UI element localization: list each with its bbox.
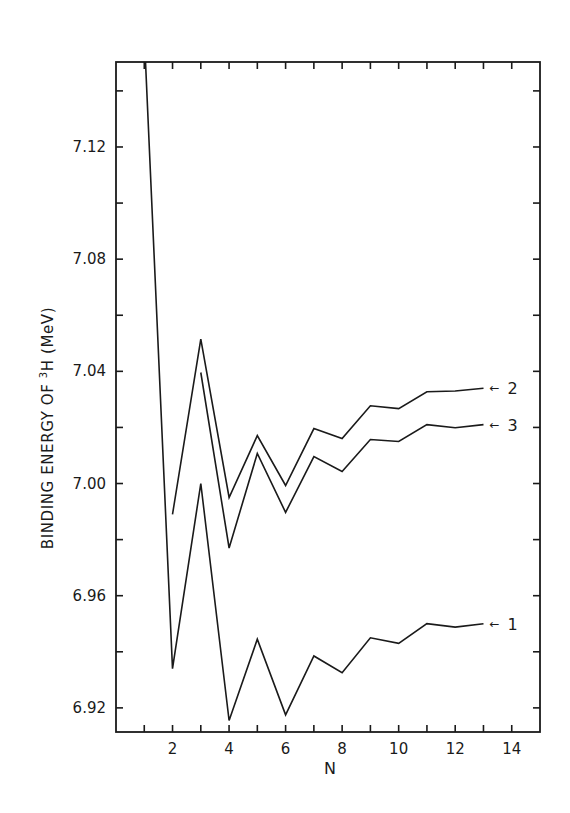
series-label-text: 2 [507,379,517,398]
y-axis-label-pre: BINDING ENERGY OF [39,378,57,549]
axis-ticks [116,62,540,732]
plot-area [144,35,483,721]
series-label-3: ←3 [489,416,517,435]
y-tick-label: 6.92 [73,699,106,717]
series-line-3 [201,373,484,549]
x-axis-tick-labels: 2468101214 [168,740,522,758]
series-label-text: 1 [507,615,517,634]
x-tick-label: 10 [389,740,408,758]
y-axis-label: BINDING ENERGY OF 3H (MeV) [38,307,57,549]
series-label-1: ←1 [489,615,517,634]
y-tick-label: 7.00 [73,475,106,493]
series-labels: ←2←3←1 [489,379,517,634]
series-label-2: ←2 [489,379,517,398]
x-tick-label: 8 [337,740,347,758]
y-tick-label: 7.08 [73,250,106,268]
y-axis-label-post: H (MeV) [39,307,57,371]
x-tick-label: 6 [281,740,291,758]
y-tick-label: 7.12 [73,138,106,156]
plot-frame [116,62,540,732]
arrow-left-icon: ← [489,381,499,395]
binding-energy-chart: 6.926.967.007.047.087.12 2468101214 ←2←3… [0,0,570,813]
x-axis-label: N [324,759,336,778]
x-tick-label: 14 [502,740,521,758]
x-tick-label: 2 [168,740,178,758]
arrow-left-icon: ← [489,418,499,432]
y-tick-label: 6.96 [73,587,106,605]
y-tick-label: 7.04 [73,362,106,380]
x-tick-label: 4 [224,740,234,758]
y-axis-tick-labels: 6.926.967.007.047.087.12 [73,138,106,717]
x-tick-label: 12 [446,740,465,758]
y-axis-label-superscript: 3 [38,371,49,378]
arrow-left-icon: ← [489,617,499,631]
series-label-text: 3 [507,416,517,435]
